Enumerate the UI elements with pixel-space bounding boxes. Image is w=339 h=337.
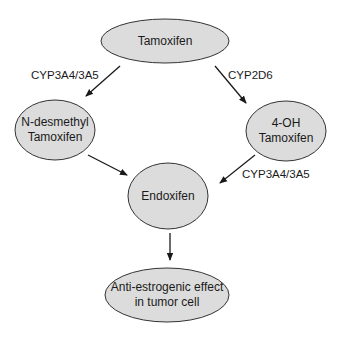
node-tamoxifen-label: Tamoxifen (138, 34, 193, 48)
node-4-oh-label-line2: Tamoxifen (259, 131, 314, 145)
edge-label-cyp3a4-right: CYP3A4/3A5 (242, 168, 310, 180)
node-tamoxifen: Tamoxifen (101, 19, 229, 63)
node-n-desmethyl-label-line1: N-desmethyl (21, 115, 88, 129)
node-endoxifen: Endoxifen (128, 163, 208, 229)
diagram-svg: CYP3A4/3A5 CYP2D6 CYP3A4/3A5 Tamoxifen N… (0, 0, 339, 337)
node-n-desmethyl-tamoxifen: N-desmethyl Tamoxifen (15, 100, 95, 160)
edge-label-cyp2d6: CYP2D6 (228, 69, 273, 81)
node-effect-label-line1: Anti-estrogenic effect (111, 280, 224, 294)
node-4-oh-label-line1: 4-OH (272, 116, 301, 130)
node-endoxifen-label: Endoxifen (141, 189, 194, 203)
node-anti-estrogenic-effect: Anti-estrogenic effect in tumor cell (105, 268, 229, 322)
node-effect-label-line2: in tumor cell (135, 295, 200, 309)
edge-n-desmethyl-to-endoxifen (88, 155, 127, 175)
edge-label-cyp3a4-left: CYP3A4/3A5 (31, 69, 99, 81)
node-4-oh-tamoxifen: 4-OH Tamoxifen (246, 101, 326, 161)
node-n-desmethyl-label-line2: Tamoxifen (28, 130, 83, 144)
tamoxifen-metabolism-diagram: CYP3A4/3A5 CYP2D6 CYP3A4/3A5 Tamoxifen N… (0, 0, 339, 337)
